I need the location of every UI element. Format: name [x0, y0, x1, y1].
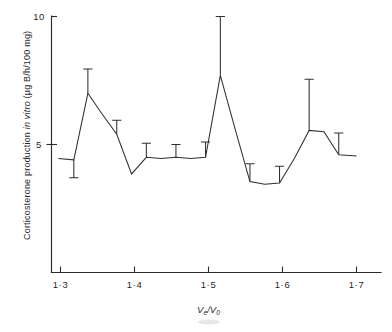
error-bar-upper — [201, 142, 210, 157]
data-series-group — [58, 17, 356, 185]
error-bar-upper — [171, 145, 180, 158]
figure-container: 10 5 1·3 1·4 1·5 1·6 1·7 Ve/V0 Corticost… — [0, 0, 392, 332]
error-bar-upper — [245, 164, 254, 182]
y-axis-title-lead: Corticosterone production — [22, 129, 32, 240]
x-axis-ticks — [61, 267, 357, 273]
svg-text:Corticosterone production in v: Corticosterone production in vitro (µg B… — [22, 31, 32, 240]
line-chart-plot: 10 5 1·3 1·4 1·5 1·6 1·7 Ve/V0 Corticost… — [0, 0, 392, 332]
y-axis-title-tail: (µg B/h/100 mg) — [22, 31, 32, 101]
error-bar-upper — [112, 120, 121, 134]
y-axis-title-italic: in vitro — [22, 101, 32, 129]
y-tick-label-5: 5 — [36, 139, 42, 150]
y-tick-label-10: 10 — [33, 11, 45, 22]
x-tick-label-1-7: 1·7 — [349, 279, 365, 290]
x-axis-title-sub-0: 0 — [216, 309, 220, 316]
error-bar-upper — [305, 79, 314, 130]
x-tick-label-1-6: 1·6 — [275, 279, 291, 290]
x-tick-label-1-4: 1·4 — [127, 279, 143, 290]
x-tick-label-1-5: 1·5 — [201, 279, 217, 290]
x-tick-label-1-3: 1·3 — [53, 279, 69, 290]
x-axis-title: Ve/V0 — [197, 304, 220, 316]
error-bar-upper — [275, 166, 284, 183]
error-bar-upper — [334, 133, 343, 155]
error-bar-upper — [83, 69, 92, 93]
scan-artifact — [198, 320, 220, 325]
error-bars-group — [69, 17, 343, 183]
y-axis-title: Corticosterone production in vitro (µg B… — [22, 31, 32, 240]
error-bar-upper — [216, 17, 225, 76]
error-bar-upper — [142, 143, 151, 157]
svg-text:Ve/V0: Ve/V0 — [197, 304, 220, 316]
data-polyline — [58, 75, 356, 184]
error-bar-lower — [69, 160, 78, 178]
